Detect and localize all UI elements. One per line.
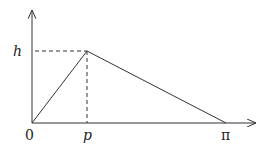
triangle-plot: h 0 p π — [0, 0, 270, 148]
h-label: h — [13, 43, 22, 59]
triangle-function — [32, 51, 226, 123]
p-label: p — [83, 127, 92, 143]
origin-label: 0 — [25, 127, 34, 143]
pi-label: π — [221, 127, 230, 143]
